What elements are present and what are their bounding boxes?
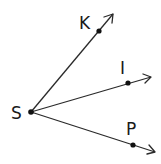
ray-diagram: K I P S (0, 0, 161, 164)
ray-si-line (31, 77, 151, 112)
point-k (96, 28, 101, 33)
point-s (28, 109, 34, 115)
ray-si: I (31, 58, 151, 112)
point-i (125, 80, 130, 85)
point-p (130, 142, 135, 147)
diagram-svg: K I P S (0, 0, 161, 164)
ray-sp: P (31, 112, 155, 154)
vertex-s: S (11, 103, 34, 123)
label-p: P (126, 119, 136, 139)
label-i: I (120, 58, 125, 78)
label-s: S (11, 103, 22, 123)
ray-sk: K (31, 13, 113, 112)
ray-sp-line (31, 112, 155, 152)
label-k: K (79, 13, 91, 33)
ray-sk-line (31, 14, 113, 112)
